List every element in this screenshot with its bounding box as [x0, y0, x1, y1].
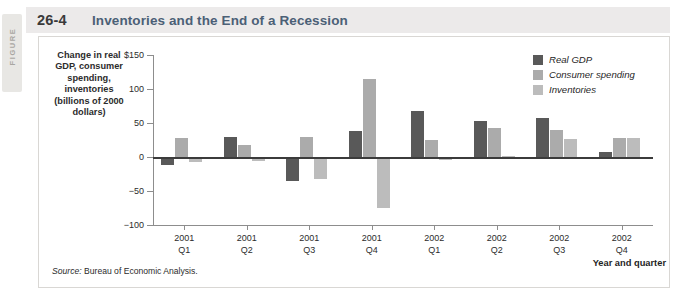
x-axis-tick: [622, 225, 623, 230]
legend-item: Inventories: [533, 82, 635, 97]
x-axis-tick-quarter: Q3: [279, 244, 339, 256]
legend-item-label: Inventories: [549, 84, 596, 95]
x-axis-tick-year: 2001: [342, 232, 402, 244]
figure-side-label: FIGURE: [8, 16, 17, 78]
bar: [224, 137, 237, 157]
x-axis-tick: [434, 225, 435, 230]
bar: [550, 130, 563, 157]
x-axis-tick-year: 2001: [279, 232, 339, 244]
x-axis-tick-label: 2001Q2: [217, 232, 277, 256]
bar: [564, 139, 577, 157]
x-axis-tick-year: 2002: [529, 232, 589, 244]
source-note-prefix: Source:: [52, 266, 82, 276]
y-axis-tick: [147, 55, 153, 56]
x-axis-tick-year: 2002: [592, 232, 652, 244]
bar: [238, 145, 251, 157]
bar: [411, 111, 424, 157]
x-axis-tick: [184, 225, 185, 230]
page-title: Inventories and the End of a Recession: [92, 13, 348, 28]
figure-side-tab: FIGURE: [2, 14, 22, 92]
bar: [425, 140, 438, 157]
y-axis-tick-label: 100: [129, 84, 144, 94]
y-axis-tick-label: −100: [124, 220, 144, 230]
x-axis-tick: [559, 225, 560, 230]
figure-root: FIGURE 26-4 Inventories and the End of a…: [0, 0, 688, 297]
x-axis-tick-quarter: Q4: [592, 244, 652, 256]
x-axis-tick-quarter: Q1: [404, 244, 464, 256]
x-axis-line: [153, 225, 653, 226]
x-axis-tick-label: 2001Q1: [154, 232, 214, 256]
x-axis-tick: [497, 225, 498, 230]
bar: [377, 157, 390, 208]
source-note: Source: Bureau of Economic Analysis.: [52, 266, 198, 276]
x-axis-tick-year: 2002: [404, 232, 464, 244]
bar: [474, 121, 487, 157]
x-axis-tick-year: 2002: [467, 232, 527, 244]
legend-item-label: Consumer spending: [549, 69, 635, 80]
x-axis-tick-label: 2002Q4: [592, 232, 652, 256]
legend-swatch-icon: [533, 85, 543, 95]
x-axis-tick: [247, 225, 248, 230]
y-axis-title: Change in real GDP, consumer spending, i…: [48, 50, 130, 118]
bar: [314, 157, 327, 179]
bar: [488, 128, 501, 157]
x-axis-tick-label: 2001Q4: [342, 232, 402, 256]
y-axis-tick-label: $150: [124, 50, 144, 60]
x-axis-tick-quarter: Q3: [529, 244, 589, 256]
y-axis-tick-label: 50: [134, 118, 144, 128]
legend-item-label: Real GDP: [549, 54, 592, 65]
bar: [627, 138, 640, 157]
source-note-text: Bureau of Economic Analysis.: [82, 266, 198, 276]
y-axis-tick: [147, 123, 153, 124]
x-axis-tick-label: 2001Q3: [279, 232, 339, 256]
figure-number: 26-4: [37, 12, 67, 28]
x-axis-tick-quarter: Q1: [154, 244, 214, 256]
y-axis-line: [153, 55, 154, 225]
legend-swatch-icon: [533, 70, 543, 80]
bar: [349, 131, 362, 157]
x-axis-tick-label: 2002Q3: [529, 232, 589, 256]
bar: [613, 138, 626, 157]
bar: [286, 157, 299, 181]
bar: [300, 137, 313, 157]
x-axis-tick-label: 2002Q2: [467, 232, 527, 256]
x-axis-tick-year: 2001: [154, 232, 214, 244]
y-axis-tick: [147, 191, 153, 192]
x-axis-tick-quarter: Q2: [467, 244, 527, 256]
x-axis-tick-label: 2002Q1: [404, 232, 464, 256]
legend-swatch-icon: [533, 55, 543, 65]
bar: [363, 79, 376, 157]
x-axis-tick-year: 2001: [217, 232, 277, 244]
x-axis-tick-quarter: Q4: [342, 244, 402, 256]
y-axis-tick: [147, 89, 153, 90]
legend-item: Consumer spending: [533, 67, 635, 82]
x-axis-tick: [372, 225, 373, 230]
y-axis-tick-label: −50: [129, 186, 144, 196]
y-axis-tick-label: 0: [139, 152, 144, 162]
bar: [175, 138, 188, 157]
x-axis-title: Year and quarter: [593, 258, 666, 268]
x-axis-tick-quarter: Q2: [217, 244, 277, 256]
legend: Real GDPConsumer spendingInventories: [533, 52, 635, 97]
legend-item: Real GDP: [533, 52, 635, 67]
bar: [536, 118, 549, 157]
x-axis-tick: [309, 225, 310, 230]
zero-baseline: [153, 157, 653, 159]
